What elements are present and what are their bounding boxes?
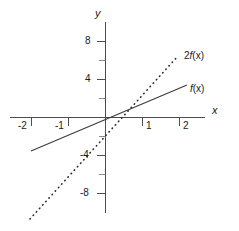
curve-label-fx: f(x)	[190, 84, 204, 94]
y-tick-label-8: 8	[85, 36, 91, 46]
y-tick-label-neg4: -4	[80, 150, 89, 160]
curve-label-2fx: 2f(x)	[184, 51, 204, 61]
plot-canvas	[0, 0, 239, 231]
series-line-2fx	[30, 56, 178, 219]
x-tick-label-neg1: -1	[55, 121, 64, 131]
x-tick-label-neg2: -2	[18, 121, 27, 131]
x-tick-label-1: 1	[146, 121, 152, 131]
y-axis-label: y	[95, 8, 101, 19]
x-axis-label: x	[212, 105, 218, 116]
y-tick-label-neg8: -8	[80, 188, 89, 198]
curve-label-2fx-arg: (x)	[192, 50, 204, 61]
x-tick-label-2: 2	[183, 121, 189, 131]
y-tick-label-4: 4	[85, 74, 91, 84]
function-graph-figure: y x -2 -1 1 2 8 4 -4 -8 2f(x) f(x)	[0, 0, 239, 231]
curve-label-fx-arg: (x)	[193, 83, 205, 94]
